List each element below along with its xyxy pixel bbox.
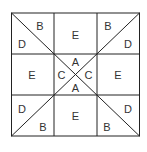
label-top-right-d: D	[124, 38, 132, 50]
label-bottom-center-e: E	[72, 110, 79, 122]
label-top-left-d: D	[18, 38, 26, 50]
label-top-right-b: B	[104, 20, 111, 32]
label-center-right-c: C	[85, 69, 93, 81]
label-center-top-a: A	[72, 56, 80, 68]
label-bottom-left-d: D	[18, 103, 26, 115]
quilt-block-diagram: B D E B D E A C C A E D B E D B	[0, 0, 147, 152]
label-bottom-right-b: B	[103, 121, 110, 133]
label-middle-right-e: E	[114, 69, 121, 81]
label-center-left-c: C	[58, 69, 66, 81]
label-middle-left-e: E	[28, 69, 35, 81]
label-bottom-right-d: D	[124, 103, 132, 115]
label-center-bottom-a: A	[72, 82, 80, 94]
label-top-center-e: E	[72, 29, 79, 41]
label-bottom-left-b: B	[39, 121, 46, 133]
label-top-left-b: B	[36, 20, 43, 32]
